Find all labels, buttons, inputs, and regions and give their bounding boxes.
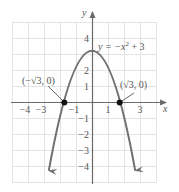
left-point-leader — [48, 86, 62, 100]
y-axis-label: y — [81, 7, 87, 18]
y-tick-m3: −3 — [78, 145, 89, 156]
x-axis-label: x — [162, 103, 168, 114]
x-tick-m4: −4 — [20, 104, 31, 115]
right-point-label: (√3, 0) — [120, 79, 147, 91]
parabola-chart: x y −4 −3 −1 1 3 4 2 1 −1 −2 −3 −4 y = −… — [0, 0, 179, 192]
equation-prefix: y = −x — [97, 41, 126, 52]
x-tick-m3: −3 — [36, 104, 47, 115]
y-tick-2: 2 — [84, 65, 89, 76]
y-tick-m2: −2 — [78, 129, 89, 140]
equation-label: y = −x2 + 3 — [97, 40, 145, 52]
left-intercept-point — [61, 100, 67, 106]
x-tick-3: 3 — [138, 104, 143, 115]
y-tick-m1: −1 — [78, 113, 89, 124]
y-tick-4: 4 — [84, 33, 89, 44]
right-intercept-point — [117, 100, 123, 106]
equation-suffix: + 3 — [129, 41, 145, 52]
y-tick-m4: −4 — [78, 161, 89, 172]
left-point-label: (−√3, 0) — [22, 75, 55, 87]
y-tick-1: 1 — [84, 81, 89, 92]
x-tick-1: 1 — [106, 104, 111, 115]
right-point-leader — [122, 93, 134, 101]
